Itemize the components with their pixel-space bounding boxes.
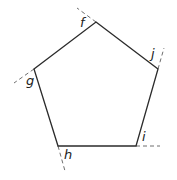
vertex-label-f: f (80, 15, 87, 30)
vertex-labels: fjihg (26, 15, 155, 162)
vertex-label-i: i (142, 129, 146, 144)
vertex-label-h: h (64, 147, 72, 162)
pentagon-shape (34, 22, 158, 146)
diagram-svg: fjihg (0, 0, 177, 180)
vertex-label-j: j (149, 46, 155, 61)
pentagon-diagram: fjihg (0, 0, 177, 180)
vertex-label-g: g (26, 73, 34, 88)
extension-line-j (158, 48, 164, 69)
